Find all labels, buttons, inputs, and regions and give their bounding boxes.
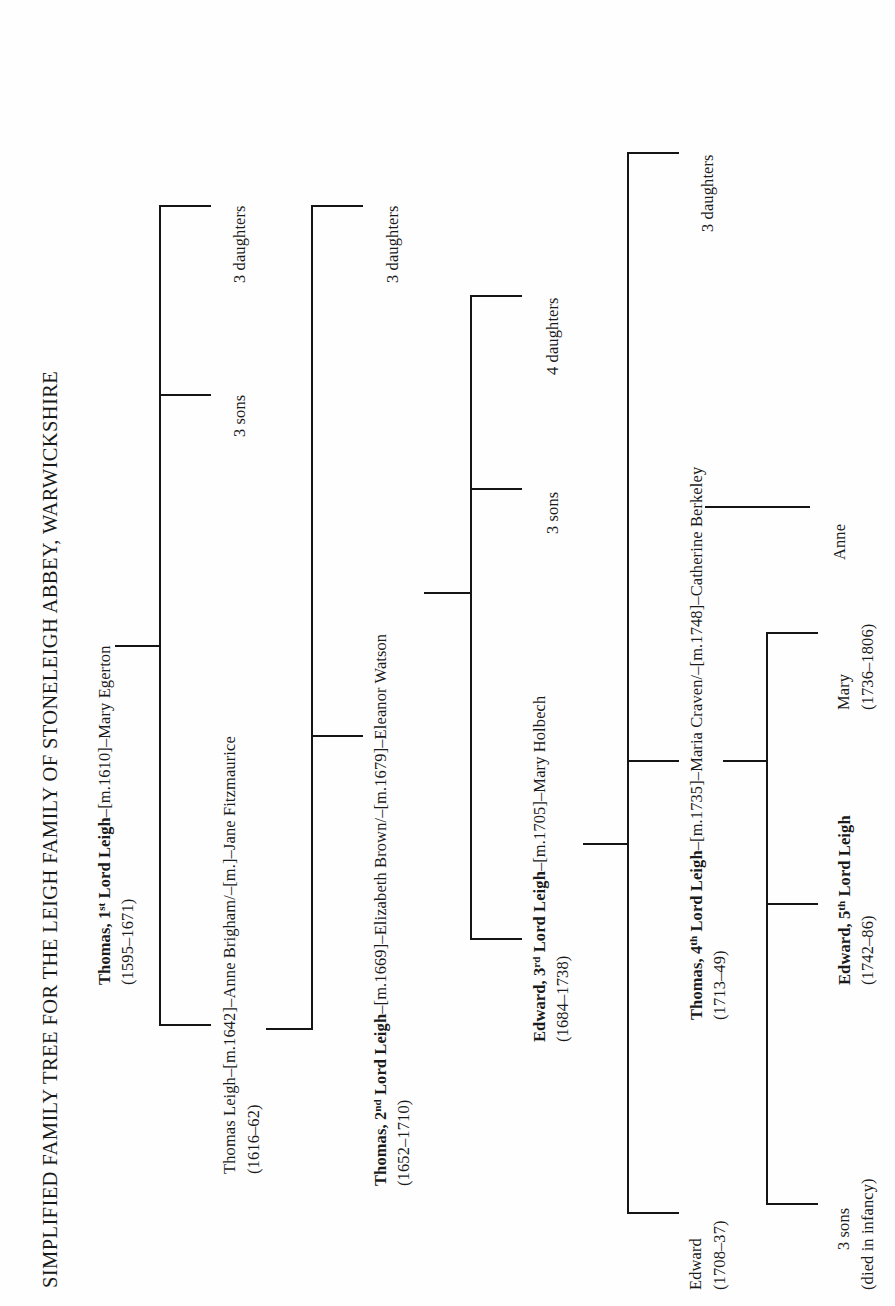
connector-g4-stem — [583, 843, 629, 845]
ordinal-suffix: th — [835, 901, 847, 911]
person-mary-1736: Mary — [836, 674, 853, 710]
dates-mary-1736: (1736–1806) — [860, 624, 877, 710]
dates-thomas-1st-lord-leigh: (1595–1671) — [120, 899, 137, 985]
person-thomas-4th-lord-leigh: Thomas, 4th Lord Leigh–[m.1735]–Maria Cr… — [688, 467, 705, 1020]
person-name-bold: Thomas, 4th Lord Leigh — [687, 850, 706, 1020]
page-title: SIMPLIFIED FAMILY TREE FOR THE LEIGH FAM… — [40, 371, 61, 1288]
connector-g5-to-3-sons-infancy — [766, 1203, 818, 1205]
marriage-info: –[m.1735]–Maria Craven/–[m.1748]–Catheri… — [687, 467, 706, 851]
leaf-3-sons-gen3: 3 sons — [545, 492, 562, 534]
person-edward-3rd-lord-leigh: Edward, 3rd Lord Leigh–[m.1705]–Mary Hol… — [531, 696, 548, 1042]
leaf-3-daughters-gen2: 3 daughters — [385, 205, 402, 283]
person-name-bold: Edward, 5th Lord Leigh — [835, 815, 854, 985]
leaf-3-sons-infancy-line1: 3 sons — [836, 1208, 853, 1250]
ordinal-suffix: nd — [371, 1099, 383, 1111]
connector-g2-to-3-daughters — [311, 205, 363, 207]
connector-g4-to-edward-1708 — [627, 1212, 679, 1214]
person-name-bold: Thomas, 2nd Lord Leigh — [371, 1014, 390, 1186]
ordinal-suffix: rd — [530, 957, 542, 968]
dates-edward-5th-lord-leigh: (1742–86) — [860, 915, 877, 985]
family-tree-sheet: SIMPLIFIED FAMILY TREE FOR THE LEIGH FAM… — [0, 0, 895, 1306]
connector-g1-stem — [115, 645, 161, 647]
marriage-info: –[m.1705]–Mary Holbech — [530, 696, 549, 871]
connector-g1-to-3-daughters — [159, 205, 211, 207]
connector-g2-stem — [266, 1028, 313, 1030]
connector-g3-to-4-daughters — [470, 295, 522, 297]
connector-g3-stem — [424, 592, 472, 594]
connector-g5-trunk — [766, 632, 768, 1205]
connector-g3-trunk — [470, 295, 472, 940]
connector-g4-to-3-daughters — [627, 152, 679, 154]
connector-g1-to-g2 — [159, 1024, 211, 1026]
connector-g2-trunk — [311, 205, 313, 1030]
person-edward-1708: Edward — [688, 1238, 705, 1290]
marriage-info: –[m.1610]–Mary Egerton — [95, 645, 114, 817]
connector-g4-to-thomas-4th — [627, 760, 679, 762]
connector-g4-trunk — [627, 152, 629, 1214]
connector-g1-to-3-sons — [159, 394, 211, 396]
connector-g2-to-g3 — [311, 735, 363, 737]
dates-thomas-2nd-lord-leigh: (1652–1710) — [396, 1100, 413, 1186]
person-thomas-2nd-lord-leigh: Thomas, 2nd Lord Leigh–[m.1669]–Elizabet… — [372, 634, 389, 1186]
connector-g1-trunk — [159, 205, 161, 646]
leaf-3-daughters-gen1: 3 daughters — [232, 205, 249, 283]
connector-g5-to-edward-5th — [766, 903, 818, 905]
marriage-info: –[m.1669]–Elizabeth Brown/–[m.1679]–Elea… — [371, 634, 390, 1014]
connector-g3-to-3-sons — [470, 488, 522, 490]
connector-g5-stem — [723, 760, 768, 762]
leaf-3-daughters-gen4: 3 daughters — [700, 154, 717, 232]
ordinal-suffix: th — [687, 936, 699, 946]
dates-thomas-4th-lord-leigh: (1713–49) — [712, 950, 729, 1020]
person-name-bold: Thomas, 1st Lord Leigh — [95, 817, 114, 985]
leaf-3-sons-infancy-line2: (died in infancy) — [860, 1178, 877, 1290]
person-thomas-leigh-1616: Thomas Leigh–[m.1642]–Anne Brigham/–[m.]… — [222, 736, 239, 1174]
leaf-4-daughters-gen3: 4 daughters — [545, 297, 562, 375]
connector-thomas-4th-to-anne — [705, 506, 810, 508]
dates-edward-1708: (1708–37) — [712, 1220, 729, 1290]
leaf-anne: Anne — [832, 524, 849, 560]
dates-thomas-leigh-1616: (1616–62) — [246, 1104, 263, 1174]
person-edward-5th-lord-leigh: Edward, 5th Lord Leigh — [836, 815, 853, 985]
dates-edward-3rd-lord-leigh: (1684–1738) — [555, 956, 572, 1042]
person-thomas-1st-lord-leigh: Thomas, 1st Lord Leigh–[m.1610]–Mary Ege… — [96, 645, 113, 985]
connector-g3-to-g4 — [470, 938, 522, 940]
person-name-bold: Edward, 3rd Lord Leigh — [530, 871, 549, 1042]
leaf-3-sons-gen1: 3 sons — [232, 395, 249, 437]
connector-g1-trunk-lower — [159, 645, 161, 1026]
connector-g5-to-mary — [766, 632, 818, 634]
ordinal-suffix: st — [95, 903, 107, 911]
